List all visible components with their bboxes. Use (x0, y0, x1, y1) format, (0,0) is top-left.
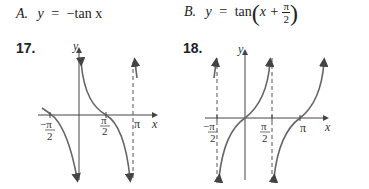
x-axis-label: x (151, 117, 158, 131)
tick-pi: π (134, 117, 140, 131)
curve-branch-right (274, 62, 324, 178)
tick-pi: π (300, 121, 306, 135)
y-axis-label: y (72, 39, 79, 53)
x-axis-label: x (324, 120, 331, 134)
curve-branch-far-left (214, 62, 216, 78)
graphs-canvas: y x −π 2 π 2 π y x −π 2 π 2 π (0, 0, 369, 189)
tick-pi-over-2: π (261, 120, 267, 132)
graph-18: y x −π 2 π 2 π (203, 42, 331, 180)
svg-text:2: 2 (210, 132, 216, 144)
svg-text:2: 2 (47, 130, 53, 142)
curve-branch-right (135, 62, 137, 78)
tick-neg-pi-over-2: −π (40, 118, 52, 130)
tick-neg-pi-over-2: −π (203, 120, 215, 132)
graph-17: y x −π 2 π 2 π (38, 39, 158, 180)
y-axis-label: y (237, 42, 244, 56)
svg-text:2: 2 (102, 125, 108, 137)
svg-text:2: 2 (262, 132, 268, 144)
